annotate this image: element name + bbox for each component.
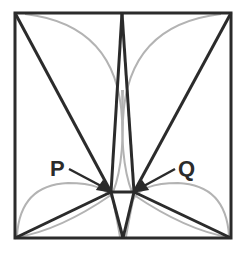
line-Q-to-bottom xyxy=(123,192,134,238)
arrows xyxy=(69,169,175,191)
arc-top-left xyxy=(25,14,122,120)
geometry-diagram: P Q xyxy=(0,0,243,253)
line-P-to-bottom xyxy=(111,192,123,238)
arc-top-right xyxy=(123,14,221,120)
label-P: P xyxy=(50,156,65,181)
label-Q: Q xyxy=(178,156,195,181)
